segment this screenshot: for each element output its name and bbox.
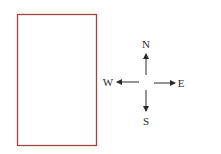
north-label: N — [142, 38, 150, 50]
east-label: E — [178, 77, 185, 89]
compass-rose: N S E W — [103, 38, 185, 127]
rectangle-shape — [18, 15, 97, 146]
west-label: W — [103, 76, 114, 88]
south-label: S — [143, 115, 149, 127]
diagram-canvas: N S E W — [0, 0, 221, 154]
